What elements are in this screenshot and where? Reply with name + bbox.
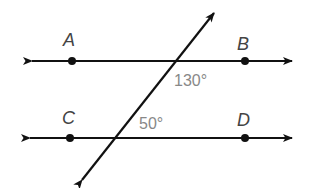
point-d bbox=[241, 134, 249, 142]
angle-50-label: 50° bbox=[139, 115, 163, 132]
label-d: D bbox=[237, 110, 250, 130]
point-c bbox=[66, 134, 74, 142]
label-c: C bbox=[62, 108, 76, 128]
label-b: B bbox=[237, 34, 249, 54]
parallel-lines-diagram: A B C D 130° 50° bbox=[0, 0, 314, 188]
point-b bbox=[241, 57, 249, 65]
label-a: A bbox=[62, 30, 75, 50]
transversal-line bbox=[82, 13, 214, 180]
angle-130-label: 130° bbox=[174, 72, 207, 89]
point-a bbox=[68, 57, 76, 65]
